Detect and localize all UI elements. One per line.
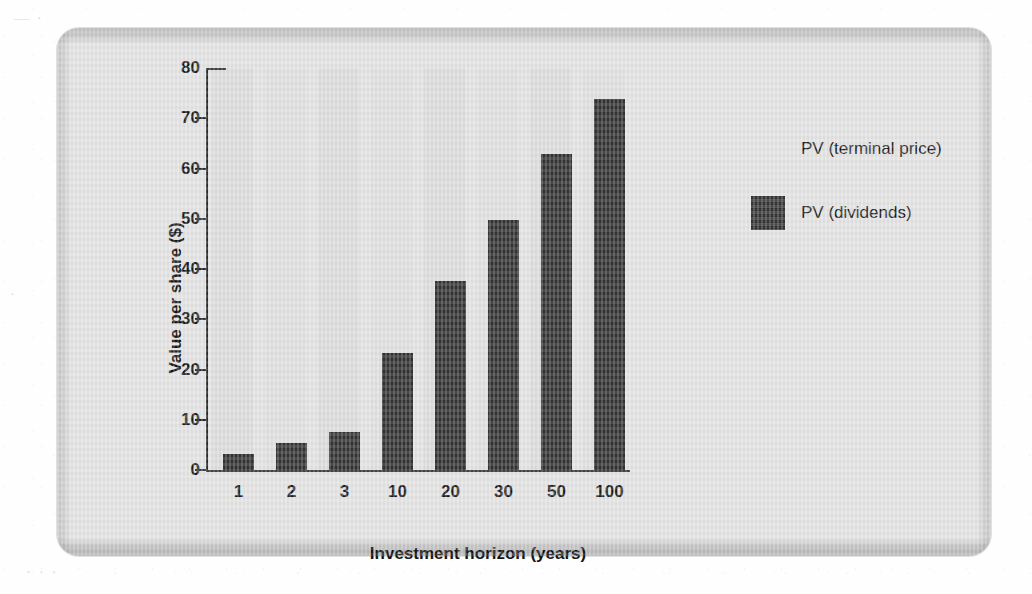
- chart-panel: Value per share ($) Investment horizon (…: [57, 28, 991, 556]
- y-axis-tick-label: 30: [181, 309, 200, 329]
- plot-band: [265, 68, 306, 470]
- y-axis-title: Value per share ($): [166, 222, 186, 373]
- x-axis-line: [206, 470, 630, 472]
- bar: [276, 443, 307, 470]
- bar: [488, 220, 519, 470]
- legend-label-terminal-price: PV (terminal price): [801, 139, 942, 159]
- y-axis-tick-label: 70: [181, 108, 200, 128]
- legend-swatch-terminal-price: [751, 132, 785, 166]
- bar: [223, 454, 254, 470]
- legend-swatch-dividends: [751, 196, 785, 230]
- legend-entry-terminal-price: PV (terminal price): [751, 132, 1001, 166]
- legend-entry-dividends: PV (dividends): [751, 196, 1001, 230]
- x-axis-title: Investment horizon (years): [263, 544, 693, 564]
- plot-band: [318, 68, 359, 470]
- y-axis-tick-label: 20: [181, 360, 200, 380]
- x-axis-tick-label: 100: [595, 482, 623, 502]
- scan-artifact: — ·: [14, 10, 44, 27]
- y-axis-line: [206, 68, 208, 470]
- y-axis-tick-label: 0: [191, 460, 200, 480]
- x-axis-tick-label: 3: [340, 482, 349, 502]
- x-axis-tick-label: 2: [287, 482, 296, 502]
- scanned-page: — · · · · · Value per share ($) Investme…: [0, 0, 1032, 594]
- bar: [541, 154, 572, 470]
- legend: PV (terminal price) PV (dividends): [751, 132, 1001, 260]
- x-axis-tick-label: 30: [494, 482, 513, 502]
- x-axis-tick-label: 20: [441, 482, 460, 502]
- plot-band: [212, 68, 253, 470]
- scan-artifact: · · ·: [26, 564, 59, 581]
- x-axis-tick-label: 50: [547, 482, 566, 502]
- y-axis-tick-label: 50: [181, 209, 200, 229]
- bar: [435, 281, 466, 470]
- x-axis-tick-label: 10: [388, 482, 407, 502]
- y-axis-tick-label: 80: [181, 58, 200, 78]
- y-axis-tick-label: 10: [181, 410, 200, 430]
- plot-area: 0102030405060708012310203050100: [206, 68, 692, 470]
- legend-label-dividends: PV (dividends): [801, 203, 912, 223]
- bar: [382, 353, 413, 470]
- scan-artifact: ·: [10, 286, 17, 303]
- x-axis-tick-label: 1: [234, 482, 243, 502]
- y-axis-tick-label: 40: [181, 259, 200, 279]
- bar: [594, 99, 625, 470]
- y-axis-tick-label: 60: [181, 159, 200, 179]
- bar: [329, 432, 360, 470]
